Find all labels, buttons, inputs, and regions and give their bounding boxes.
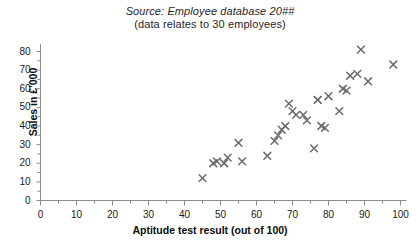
y-tick-label: 0 — [9, 195, 31, 206]
y-tick-label: 20 — [9, 157, 31, 168]
data-point — [199, 175, 206, 182]
y-tick-label: 50 — [9, 101, 31, 112]
x-tick-label: 0 — [28, 209, 54, 220]
x-tick-label: 60 — [244, 209, 270, 220]
x-tick-label: 50 — [208, 209, 234, 220]
data-point — [358, 46, 365, 53]
y-tick-label: 10 — [9, 176, 31, 187]
y-tick-label: 60 — [9, 83, 31, 94]
data-point — [239, 158, 246, 165]
data-point — [336, 108, 343, 115]
data-point — [314, 97, 321, 104]
y-tick-label: 70 — [9, 64, 31, 75]
y-tick-label: 30 — [9, 139, 31, 150]
x-tick-label: 80 — [316, 209, 342, 220]
data-point — [293, 111, 300, 118]
data-point — [390, 61, 397, 68]
data-point — [311, 145, 318, 152]
data-point — [235, 139, 242, 146]
x-tick-label: 90 — [352, 209, 378, 220]
scatter-plot-figure: Source: Employee database 20## (data rel… — [0, 0, 420, 248]
data-point — [282, 123, 289, 130]
x-tick-label: 40 — [172, 209, 198, 220]
y-tick-label: 40 — [9, 120, 31, 131]
x-tick-label: 70 — [280, 209, 306, 220]
data-point — [347, 72, 354, 79]
x-tick-label: 30 — [136, 209, 162, 220]
data-point-markers — [199, 46, 397, 181]
x-tick-label: 100 — [388, 209, 414, 220]
y-tick-label: 80 — [9, 46, 31, 57]
data-point — [286, 100, 293, 107]
axis-lines — [41, 44, 407, 200]
x-tick-label: 20 — [100, 209, 126, 220]
data-point — [354, 70, 361, 77]
y-tick-marks — [37, 52, 41, 201]
x-tick-marks — [41, 201, 401, 206]
x-tick-label: 10 — [64, 209, 90, 220]
data-point — [365, 78, 372, 85]
data-point — [264, 152, 271, 159]
data-point — [325, 93, 332, 100]
